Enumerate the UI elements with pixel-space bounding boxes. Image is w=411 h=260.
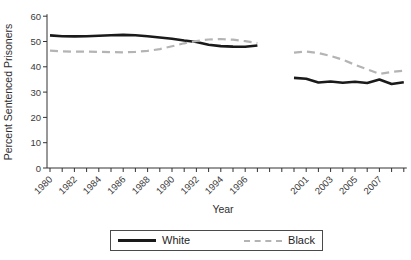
svg-text:1982: 1982 xyxy=(56,174,79,197)
svg-text:2007: 2007 xyxy=(361,174,384,197)
svg-text:0: 0 xyxy=(36,163,41,174)
svg-text:1990: 1990 xyxy=(154,174,177,197)
legend-entry-white: White xyxy=(118,235,190,246)
svg-text:1992: 1992 xyxy=(178,174,201,197)
svg-text:1994: 1994 xyxy=(202,174,225,197)
svg-text:1996: 1996 xyxy=(227,174,250,197)
white-series-line-swatch xyxy=(118,239,156,242)
svg-text:50: 50 xyxy=(30,36,41,47)
svg-text:2005: 2005 xyxy=(337,174,360,197)
svg-text:2001: 2001 xyxy=(288,174,311,197)
legend-label-white: White xyxy=(162,235,190,246)
svg-text:1980: 1980 xyxy=(32,174,55,197)
chart-legend: White Black xyxy=(110,230,323,251)
svg-text:30: 30 xyxy=(30,87,41,98)
svg-text:10: 10 xyxy=(30,137,41,148)
svg-text:40: 40 xyxy=(30,61,41,72)
legend-label-black: Black xyxy=(288,235,315,246)
svg-text:1984: 1984 xyxy=(80,174,103,197)
svg-text:1986: 1986 xyxy=(105,174,128,197)
chart-canvas: 0102030405060198019821984198619881990199… xyxy=(0,0,411,226)
svg-text:Percent Sentenced Prisoners: Percent Sentenced Prisoners xyxy=(2,24,14,161)
svg-text:1988: 1988 xyxy=(129,174,152,197)
legend-entry-black: Black xyxy=(244,235,315,246)
svg-text:60: 60 xyxy=(30,11,41,22)
svg-text:2003: 2003 xyxy=(312,174,335,197)
line-chart-figure: 0102030405060198019821984198619881990199… xyxy=(0,0,411,260)
black-series-line-swatch xyxy=(244,240,282,242)
svg-text:Year: Year xyxy=(212,203,234,215)
svg-text:20: 20 xyxy=(30,112,41,123)
